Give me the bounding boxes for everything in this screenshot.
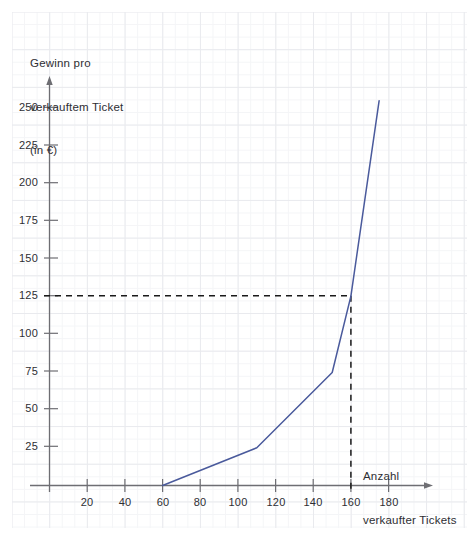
x-tick-label-140: 140 [298,496,328,509]
y-axis-title-line-2: verkauftem Ticket [30,100,124,115]
x-tick-label-100: 100 [223,496,253,509]
chart-canvas: Gewinn pro verkauftem Ticket (in €) Anza… [0,0,472,534]
y-tick-label-125: 125 [4,289,38,302]
x-tick-label-180: 180 [374,496,404,509]
x-axis-title-line-2: verkaufter Tickets [363,513,457,528]
profit-curve [163,101,380,486]
x-tick-label-80: 80 [185,496,215,509]
x-tick-label-120: 120 [261,496,291,509]
x-tick-label-160: 160 [336,496,366,509]
y-tick-label-100: 100 [4,327,38,340]
y-tick-label-200: 200 [4,176,38,189]
x-axis-title-line-1: Anzahl [363,469,457,484]
y-tick-label-225: 225 [4,139,38,152]
x-tick-label-20: 20 [72,496,102,509]
y-tick-label-175: 175 [4,214,38,227]
x-axis-title: Anzahl verkaufter Tickets [363,440,457,534]
y-tick-label-250: 250 [4,101,38,114]
x-tick-label-40: 40 [110,496,140,509]
y-axis-title-line-1: Gewinn pro [30,56,124,71]
y-tick-label-150: 150 [4,252,38,265]
y-tick-label-75: 75 [4,365,38,378]
y-tick-label-25: 25 [4,440,38,453]
y-axis-title-line-3: (in €) [30,143,124,158]
y-tick-label-50: 50 [4,402,38,415]
y-axis-title: Gewinn pro verkauftem Ticket (in €) [30,27,124,187]
x-tick-label-60: 60 [148,496,178,509]
